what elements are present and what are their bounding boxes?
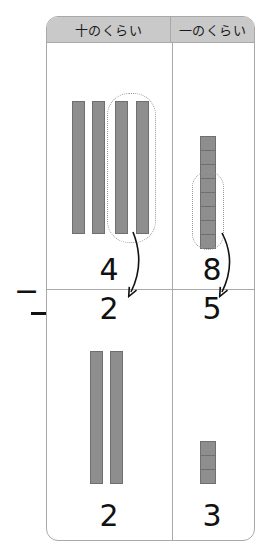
minuend-tens-digit: 4	[89, 255, 129, 285]
minuend-ones-digit: 8	[192, 255, 232, 285]
removal-loop-ones	[192, 171, 224, 250]
row-divider	[47, 289, 255, 290]
ten-bar	[110, 351, 123, 484]
subtrahend-ones-digit: 5	[192, 294, 232, 324]
place-value-table: 十のくらい 一のくらい 4 8 2 5	[46, 16, 255, 541]
one-square	[200, 150, 216, 165]
column-header-ones: 一のくらい	[171, 17, 254, 42]
ten-bar	[92, 101, 105, 234]
one-square	[200, 469, 216, 484]
ten-bar	[72, 101, 85, 234]
diagram-canvas: − 十のくらい 一のくらい 4 8 2 5	[0, 0, 261, 557]
minus-operator: −	[14, 276, 36, 306]
one-square	[200, 136, 216, 151]
column-divider	[172, 43, 173, 541]
difference-ones-digit: 3	[192, 501, 232, 531]
removal-loop-tens	[107, 93, 156, 243]
subtrahend-tens-digit: 2	[89, 294, 129, 324]
one-square	[200, 455, 216, 470]
ten-bar	[90, 351, 103, 484]
one-square	[200, 441, 216, 456]
difference-tens-digit: 2	[89, 501, 129, 531]
column-header-tens: 十のくらい	[47, 17, 171, 42]
table-header: 十のくらい 一のくらい	[47, 17, 254, 43]
